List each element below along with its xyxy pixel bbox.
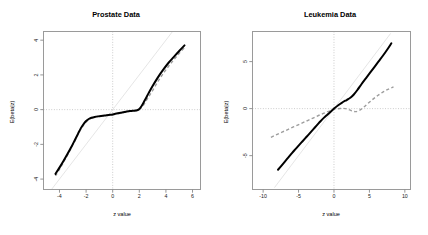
figure-container: Prostate Data -4-20246 -4-2024 z value E… [0, 0, 428, 235]
prostate-plot-svg: Prostate Data -4-20246 -4-2024 z value E… [0, 0, 214, 235]
x-axis-title-left: z value [113, 211, 131, 217]
y-tick-label: 0 [33, 108, 39, 111]
x-tick-label: 4 [164, 193, 167, 199]
x-axis-title-right: z value [322, 211, 340, 217]
chart-panel-prostate: Prostate Data -4-20246 -4-2024 z value E… [0, 0, 214, 235]
x-tick-label: 0 [333, 193, 336, 199]
y-tick-label: -4 [33, 177, 39, 182]
plot-frame-left [44, 32, 201, 190]
x-tick-label: 2 [138, 193, 141, 199]
y-axis-title-right: E(beta|z) [223, 101, 229, 124]
x-tick-label: 10 [402, 193, 408, 199]
x-axis-ticks-right: -10-50510 [259, 190, 408, 200]
chart-title-right: Leukemia Data [304, 10, 357, 19]
y-tick-label: 0 [242, 107, 248, 110]
x-tick-label: -2 [84, 193, 89, 199]
y-axis-ticks-left: -4-2024 [33, 39, 44, 182]
y-tick-label: 5 [242, 60, 248, 63]
comparison-curve-right [271, 87, 394, 138]
x-tick-label: -5 [296, 193, 301, 199]
x-tick-label: -4 [57, 193, 62, 199]
y-tick-label: -2 [33, 142, 39, 147]
estimate-curve-right [278, 43, 391, 169]
chart-title-left: Prostate Data [92, 10, 141, 19]
y-axis-title-left: E(beta|z) [9, 101, 15, 124]
leukemia-plot-svg: Leukemia Data -10-50510 -505 z value E(b… [214, 0, 428, 235]
x-tick-label: 0 [111, 193, 114, 199]
x-tick-label: -10 [259, 193, 267, 199]
x-axis-ticks-left: -4-20246 [57, 190, 194, 200]
y-tick-label: 2 [33, 73, 39, 76]
x-tick-label: 6 [191, 193, 194, 199]
identity-reference-line-left [51, 32, 172, 190]
chart-panel-leukemia: Leukemia Data -10-50510 -505 z value E(b… [214, 0, 428, 235]
y-axis-ticks-right: -505 [242, 60, 253, 158]
y-tick-label: 4 [33, 39, 39, 42]
x-tick-label: 5 [368, 193, 371, 199]
y-tick-label: -5 [242, 153, 248, 158]
